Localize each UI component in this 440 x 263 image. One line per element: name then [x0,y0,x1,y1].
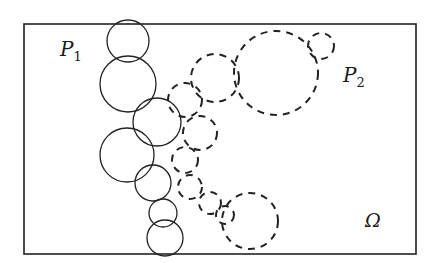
p1-circle-chain [100,20,183,256]
p2-circle-chain [168,31,334,249]
p2-circle [222,193,278,249]
label-omega: Ω [364,209,381,231]
p1-circle [100,128,154,182]
p2-circle [191,54,239,102]
label-p2: P2 [342,63,365,90]
p2-circle [183,116,217,150]
p2-circle [168,83,202,117]
p2-circle [178,175,202,199]
p1-circle [133,98,181,146]
p1-circle [149,199,177,227]
p1-circle [100,56,156,112]
p2-circle [172,147,198,173]
p2-circle [308,33,334,59]
domain-diagram: P1 P2 Ω [0,0,440,263]
p1-circle [147,220,183,256]
label-p1: P1 [59,37,82,64]
p2-circle [234,31,318,115]
domain-omega-boundary [24,24,416,254]
p1-circle [135,165,171,201]
